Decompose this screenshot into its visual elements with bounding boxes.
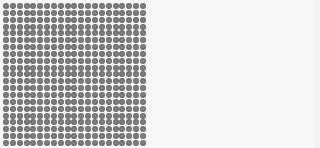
grid-dot[interactable] (126, 3, 132, 9)
grid-dot[interactable] (58, 113, 64, 119)
grid-dot[interactable] (17, 99, 23, 105)
grid-dot[interactable] (126, 106, 132, 112)
grid-dot[interactable] (133, 140, 139, 146)
grid-dot[interactable] (119, 126, 125, 132)
grid-dot[interactable] (126, 37, 132, 43)
grid-dot[interactable] (71, 17, 77, 23)
grid-dot[interactable] (106, 133, 112, 139)
grid-dot[interactable] (37, 24, 43, 30)
grid-dot[interactable] (106, 58, 112, 64)
grid-dot[interactable] (24, 30, 30, 36)
grid-dot[interactable] (71, 44, 77, 50)
grid-dot[interactable] (99, 58, 105, 64)
grid-dot[interactable] (30, 71, 36, 77)
grid-dot[interactable] (3, 24, 9, 30)
grid-dot[interactable] (119, 85, 125, 91)
grid-dot[interactable] (126, 17, 132, 23)
grid-dot[interactable] (30, 92, 36, 98)
grid-dot[interactable] (140, 126, 146, 132)
grid-dot[interactable] (71, 85, 77, 91)
grid-dot[interactable] (51, 99, 57, 105)
grid-dot[interactable] (78, 133, 84, 139)
grid-dot[interactable] (106, 78, 112, 84)
grid-dot[interactable] (65, 51, 71, 57)
grid-dot[interactable] (24, 85, 30, 91)
grid-dot[interactable] (119, 44, 125, 50)
grid-dot[interactable] (65, 126, 71, 132)
grid-dot[interactable] (92, 37, 98, 43)
grid-dot[interactable] (10, 126, 16, 132)
grid-dot[interactable] (65, 113, 71, 119)
grid-dot[interactable] (58, 140, 64, 146)
grid-dot[interactable] (58, 10, 64, 16)
grid-dot[interactable] (99, 71, 105, 77)
grid-dot[interactable] (85, 99, 91, 105)
grid-dot[interactable] (17, 71, 23, 77)
grid-dot[interactable] (78, 30, 84, 36)
grid-dot[interactable] (71, 78, 77, 84)
grid-dot[interactable] (119, 113, 125, 119)
grid-dot[interactable] (10, 106, 16, 112)
grid-dot[interactable] (126, 126, 132, 132)
grid-dot[interactable] (17, 37, 23, 43)
grid-dot[interactable] (10, 51, 16, 57)
grid-dot[interactable] (119, 65, 125, 71)
grid-dot[interactable] (44, 126, 50, 132)
grid-dot[interactable] (65, 106, 71, 112)
grid-dot[interactable] (30, 133, 36, 139)
grid-dot[interactable] (44, 3, 50, 9)
grid-dot[interactable] (10, 30, 16, 36)
grid-dot[interactable] (10, 133, 16, 139)
grid-dot[interactable] (85, 140, 91, 146)
grid-dot[interactable] (113, 24, 119, 30)
grid-dot[interactable] (126, 71, 132, 77)
grid-dot[interactable] (44, 106, 50, 112)
grid-dot[interactable] (92, 119, 98, 125)
grid-dot[interactable] (71, 106, 77, 112)
grid-dot[interactable] (58, 65, 64, 71)
grid-dot[interactable] (37, 44, 43, 50)
grid-dot[interactable] (113, 65, 119, 71)
grid-dot[interactable] (78, 17, 84, 23)
grid-dot[interactable] (65, 133, 71, 139)
grid-dot[interactable] (119, 51, 125, 57)
grid-dot[interactable] (119, 119, 125, 125)
grid-dot[interactable] (3, 119, 9, 125)
grid-dot[interactable] (3, 140, 9, 146)
grid-dot[interactable] (24, 37, 30, 43)
grid-dot[interactable] (37, 37, 43, 43)
grid-dot[interactable] (140, 85, 146, 91)
grid-dot[interactable] (10, 85, 16, 91)
grid-dot[interactable] (113, 37, 119, 43)
grid-dot[interactable] (3, 106, 9, 112)
grid-dot[interactable] (44, 71, 50, 77)
grid-dot[interactable] (24, 119, 30, 125)
grid-dot[interactable] (10, 78, 16, 84)
grid-dot[interactable] (37, 65, 43, 71)
grid-dot[interactable] (113, 78, 119, 84)
grid-dot[interactable] (113, 133, 119, 139)
grid-dot[interactable] (58, 44, 64, 50)
grid-dot[interactable] (37, 78, 43, 84)
grid-dot[interactable] (30, 10, 36, 16)
grid-dot[interactable] (37, 140, 43, 146)
grid-dot[interactable] (119, 37, 125, 43)
grid-dot[interactable] (51, 92, 57, 98)
grid-dot[interactable] (30, 78, 36, 84)
grid-dot[interactable] (24, 10, 30, 16)
grid-dot[interactable] (58, 119, 64, 125)
grid-dot[interactable] (78, 92, 84, 98)
grid-dot[interactable] (113, 140, 119, 146)
grid-dot[interactable] (99, 24, 105, 30)
grid-dot[interactable] (78, 65, 84, 71)
grid-dot[interactable] (71, 113, 77, 119)
grid-dot[interactable] (99, 65, 105, 71)
grid-dot[interactable] (58, 37, 64, 43)
grid-dot[interactable] (113, 119, 119, 125)
grid-dot[interactable] (3, 3, 9, 9)
grid-dot[interactable] (140, 24, 146, 30)
grid-dot[interactable] (85, 71, 91, 77)
grid-dot[interactable] (51, 30, 57, 36)
grid-dot[interactable] (106, 44, 112, 50)
grid-dot[interactable] (58, 92, 64, 98)
